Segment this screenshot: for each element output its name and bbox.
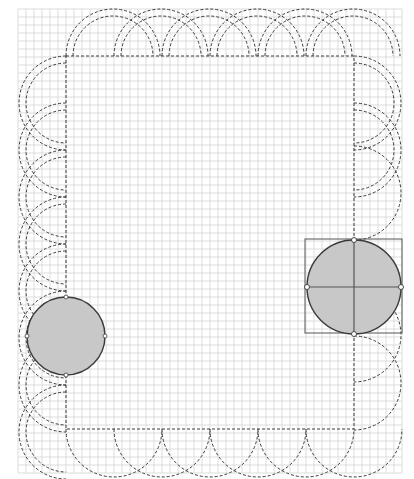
top-border-arc	[265, 16, 345, 56]
resize-handle[interactable]	[399, 285, 404, 290]
notch-point	[64, 373, 68, 377]
top-border-arc	[73, 16, 153, 56]
resize-handle[interactable]	[352, 238, 357, 243]
top-border-arc	[217, 16, 297, 56]
circle-right-selected[interactable]	[305, 238, 404, 337]
circle-left-shape[interactable]	[27, 297, 105, 375]
notch-point	[103, 334, 107, 338]
notch-point	[25, 334, 29, 338]
circle-left[interactable]	[25, 295, 107, 377]
notch-point	[64, 295, 68, 299]
design-canvas[interactable]	[0, 0, 414, 479]
top-border-arc	[169, 16, 249, 56]
resize-handle[interactable]	[305, 285, 310, 290]
top-border-arc	[313, 16, 393, 56]
resize-handle[interactable]	[352, 332, 357, 337]
top-border-arc	[121, 16, 201, 56]
